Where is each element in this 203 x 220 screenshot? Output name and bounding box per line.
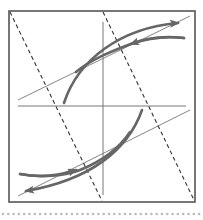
dot: [140, 213, 143, 216]
dot: [113, 213, 116, 216]
dot: [187, 213, 190, 216]
dot: [150, 213, 153, 216]
dot: [7, 213, 10, 216]
dot: [44, 213, 47, 216]
dot: [81, 213, 84, 216]
dot: [12, 213, 15, 216]
dot: [102, 213, 105, 216]
dot: [118, 213, 121, 216]
dot: [34, 213, 37, 216]
dot: [39, 213, 42, 216]
background: [0, 0, 203, 220]
dot: [171, 213, 174, 216]
dot: [97, 213, 100, 216]
dot: [145, 213, 148, 216]
dot: [134, 213, 137, 216]
dot: [87, 213, 90, 216]
dot: [155, 213, 158, 216]
dot: [177, 213, 180, 216]
dot: [60, 213, 63, 216]
dot: [166, 213, 169, 216]
dot: [161, 213, 164, 216]
dot: [18, 213, 21, 216]
dot: [129, 213, 132, 216]
hysteresis-diagram: [0, 0, 203, 220]
dot: [92, 213, 95, 216]
dot: [124, 213, 127, 216]
dot: [28, 213, 31, 216]
dot: [108, 213, 111, 216]
dot: [49, 213, 52, 216]
dot: [65, 213, 68, 216]
dot: [182, 213, 185, 216]
dot: [2, 213, 5, 216]
dot: [193, 213, 196, 216]
dot: [55, 213, 58, 216]
dot: [198, 213, 201, 216]
dot: [76, 213, 79, 216]
dot: [23, 213, 26, 216]
dot: [71, 213, 74, 216]
